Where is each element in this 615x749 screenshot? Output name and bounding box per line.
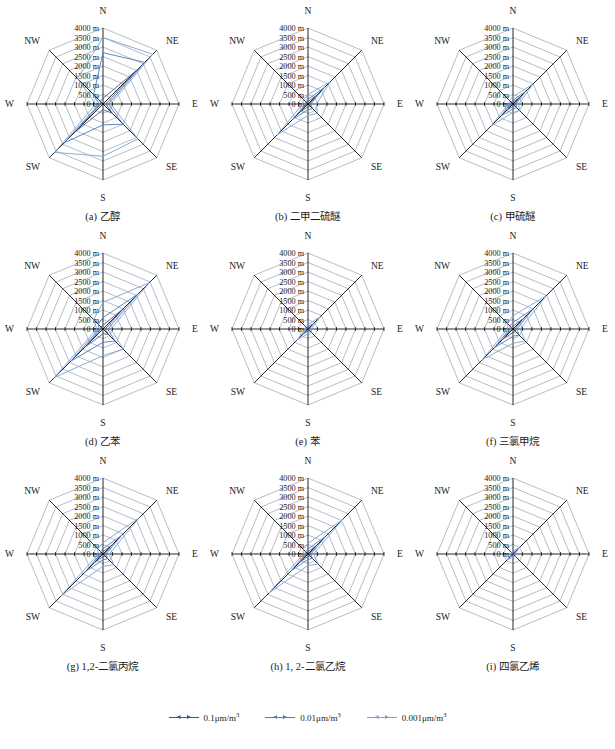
radar-plot-f: 4000 m3500 m3000 m2500 m2000 m1500 m1000… bbox=[410, 225, 615, 438]
radial-tick-label: 500 m bbox=[488, 541, 509, 550]
radar-plot-c: 4000 m3500 m3000 m2500 m2000 m1500 m1000… bbox=[410, 0, 615, 213]
panel-i: 4000 m3500 m3000 m2500 m2000 m1500 m1000… bbox=[410, 450, 615, 675]
direction-label-sw: SW bbox=[436, 612, 450, 622]
direction-label-sw: SW bbox=[436, 162, 450, 172]
panel-a: 4000 m3500 m3000 m2500 m2000 m1500 m1000… bbox=[0, 0, 205, 225]
radial-tick-label: 2000 m bbox=[484, 62, 509, 71]
radial-tick-label: 500 m bbox=[488, 316, 509, 325]
radar-spokes bbox=[27, 253, 179, 405]
radial-tick-label: 2000 m bbox=[484, 287, 509, 296]
radial-tick-label: 3000 m bbox=[484, 268, 509, 277]
direction-label-se: SE bbox=[166, 612, 177, 622]
direction-label-e: E bbox=[602, 99, 608, 109]
radar-chart-b: 4000 m3500 m3000 m2500 m2000 m1500 m1000… bbox=[205, 0, 410, 213]
direction-label-ne: NE bbox=[371, 36, 384, 46]
radar-spokes bbox=[232, 253, 384, 405]
radial-tick-label: 1500 m bbox=[279, 72, 304, 81]
direction-label-e: E bbox=[397, 99, 403, 109]
radial-tick-label: 3000 m bbox=[484, 493, 509, 502]
radial-tick-label: 4000 m bbox=[484, 474, 509, 483]
direction-label-w: W bbox=[210, 324, 219, 334]
radar-plot-h: 4000 m3500 m3000 m2500 m2000 m1500 m1000… bbox=[205, 450, 410, 663]
radial-tick-label: 3000 m bbox=[74, 268, 99, 277]
panel-caption-h: (h) 1, 2-二氯乙烷 bbox=[205, 661, 410, 673]
radial-tick-label: 2000 m bbox=[74, 287, 99, 296]
direction-label-ne: NE bbox=[166, 36, 179, 46]
radar-chart-c: 4000 m3500 m3000 m2500 m2000 m1500 m1000… bbox=[410, 0, 615, 213]
radial-tick-label: 3500 m bbox=[279, 259, 304, 268]
radial-tick-label: 2500 m bbox=[74, 278, 99, 287]
direction-label-n: N bbox=[305, 6, 312, 16]
panel-f: 4000 m3500 m3000 m2500 m2000 m1500 m1000… bbox=[410, 225, 615, 450]
radial-tick-label: 2500 m bbox=[74, 503, 99, 512]
direction-label-sw: SW bbox=[436, 387, 450, 397]
direction-label-ne: NE bbox=[371, 486, 384, 496]
direction-label-w: W bbox=[5, 324, 14, 334]
radar-spokes bbox=[232, 478, 384, 630]
direction-label-w: W bbox=[415, 549, 424, 559]
radial-tick-label: 2500 m bbox=[484, 278, 509, 287]
radial-tick-labels: 4000 m3500 m3000 m2500 m2000 m1500 m1000… bbox=[74, 249, 99, 334]
direction-label-sw: SW bbox=[26, 162, 40, 172]
direction-label-sw: SW bbox=[231, 612, 245, 622]
direction-label-w: W bbox=[5, 99, 14, 109]
radial-tick-label: 4000 m bbox=[74, 249, 99, 258]
radial-tick-label: 4000 m bbox=[279, 249, 304, 258]
direction-label-se: SE bbox=[166, 162, 177, 172]
radial-tick-label: 3500 m bbox=[484, 484, 509, 493]
radial-tick-label: 4000 m bbox=[74, 474, 99, 483]
direction-label-s: S bbox=[305, 643, 310, 653]
direction-label-s: S bbox=[510, 418, 515, 428]
panel-caption-a: (a) 乙醇 bbox=[0, 211, 205, 223]
legend-item-0: 0.1μm/m3 bbox=[169, 711, 240, 723]
legend-label: 0.1μm/m3 bbox=[204, 711, 240, 723]
radar-chart-i: 4000 m3500 m3000 m2500 m2000 m1500 m1000… bbox=[410, 450, 615, 663]
direction-label-ne: NE bbox=[166, 486, 179, 496]
radial-tick-label: 3500 m bbox=[279, 34, 304, 43]
radial-tick-label: 1000 m bbox=[279, 306, 304, 315]
panel-caption-d: (d) 乙苯 bbox=[0, 436, 205, 448]
radial-tick-label: 1000 m bbox=[279, 531, 304, 540]
radar-spokes bbox=[232, 28, 384, 180]
legend-line-icon bbox=[265, 713, 295, 721]
legend-item-2: 0.001μm/m3 bbox=[367, 711, 447, 723]
direction-label-n: N bbox=[100, 231, 107, 241]
panel-row-2: 4000 m3500 m3000 m2500 m2000 m1500 m1000… bbox=[0, 225, 615, 450]
direction-label-nw: NW bbox=[229, 486, 245, 496]
radial-tick-label: 2000 m bbox=[279, 287, 304, 296]
radar-plot-b: 4000 m3500 m3000 m2500 m2000 m1500 m1000… bbox=[205, 0, 410, 213]
direction-label-n: N bbox=[100, 456, 107, 466]
radial-tick-label: 500 m bbox=[488, 91, 509, 100]
radial-tick-labels: 4000 m3500 m3000 m2500 m2000 m1500 m1000… bbox=[74, 474, 99, 559]
panel-caption-g: (g) 1,2-二氯丙烷 bbox=[0, 661, 205, 673]
direction-label-nw: NW bbox=[229, 36, 245, 46]
direction-label-se: SE bbox=[371, 387, 382, 397]
direction-label-se: SE bbox=[576, 387, 587, 397]
radar-plot-e: 4000 m3500 m3000 m2500 m2000 m1500 m1000… bbox=[205, 225, 410, 438]
panel-caption-e: (e) 苯 bbox=[205, 436, 410, 448]
direction-label-se: SE bbox=[371, 162, 382, 172]
figure-container: 4000 m3500 m3000 m2500 m2000 m1500 m1000… bbox=[0, 0, 615, 749]
radial-tick-labels: 4000 m3500 m3000 m2500 m2000 m1500 m1000… bbox=[484, 474, 509, 559]
radial-tick-labels: 4000 m3500 m3000 m2500 m2000 m1500 m1000… bbox=[484, 249, 509, 334]
direction-label-sw: SW bbox=[231, 162, 245, 172]
radial-tick-label: 3500 m bbox=[279, 484, 304, 493]
radial-tick-label: 1000 m bbox=[74, 306, 99, 315]
radial-tick-label: 1000 m bbox=[484, 306, 509, 315]
direction-label-s: S bbox=[100, 193, 105, 203]
radial-tick-labels: 4000 m3500 m3000 m2500 m2000 m1500 m1000… bbox=[279, 249, 304, 334]
radial-tick-label: 4000 m bbox=[74, 24, 99, 33]
direction-label-n: N bbox=[510, 456, 517, 466]
legend-label: 0.01μm/m3 bbox=[300, 711, 340, 723]
direction-label-nw: NW bbox=[24, 261, 40, 271]
direction-label-w: W bbox=[210, 99, 219, 109]
radar-chart-h: 4000 m3500 m3000 m2500 m2000 m1500 m1000… bbox=[205, 450, 410, 663]
radar-spokes bbox=[437, 28, 589, 180]
radial-tick-label: 3000 m bbox=[74, 43, 99, 52]
direction-label-e: E bbox=[602, 324, 608, 334]
legend-label: 0.001μm/m3 bbox=[402, 711, 447, 723]
radial-tick-label: 1000 m bbox=[279, 81, 304, 90]
direction-label-s: S bbox=[510, 643, 515, 653]
direction-label-e: E bbox=[192, 549, 198, 559]
radial-tick-label: 1500 m bbox=[74, 297, 99, 306]
